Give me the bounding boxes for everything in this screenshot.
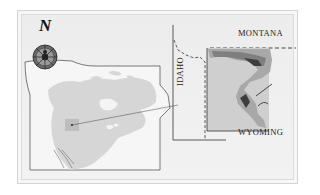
inset-map: [173, 25, 296, 140]
label-idaho: IDAHO: [175, 57, 185, 86]
label-montana: MONTANA: [238, 28, 283, 38]
label-wyoming: WYOMING: [238, 127, 283, 137]
north-label: N: [39, 16, 51, 36]
compass-rose-icon: [33, 45, 57, 69]
overview-map: [25, 59, 178, 170]
